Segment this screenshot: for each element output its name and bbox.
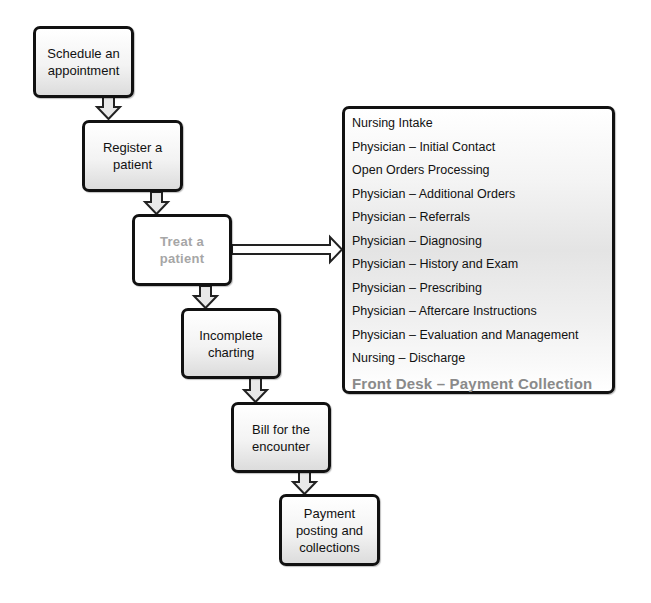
step-label: Treat a patient	[160, 233, 205, 267]
arrow-treat-to-detail	[232, 237, 342, 262]
arrow-bill-to-payment	[293, 472, 316, 494]
detail-item: Physician – Evaluation and Management	[352, 324, 612, 348]
detail-item-highlighted: Front Desk – Payment Collection	[352, 371, 612, 397]
step-bill-encounter: Bill for the encounter	[231, 402, 331, 473]
step-label: Payment posting and collections	[296, 505, 363, 556]
step-label: Incomplete charting	[199, 327, 263, 361]
detail-item: Physician – Initial Contact	[352, 136, 612, 160]
step-incomplete-charting: Incomplete charting	[181, 308, 281, 379]
step-schedule-appointment: Schedule an appointment	[33, 26, 134, 98]
arrow-charting-to-bill	[244, 378, 267, 402]
arrow-schedule-to-register	[97, 97, 120, 119]
detail-item: Open Orders Processing	[352, 159, 612, 183]
step-label: Bill for the encounter	[252, 421, 310, 455]
step-payment-posting: Payment posting and collections	[279, 494, 380, 566]
detail-item: Physician – Prescribing	[352, 277, 612, 301]
step-register-patient: Register a patient	[82, 120, 183, 192]
treat-detail-list: Nursing Intake Physician – Initial Conta…	[342, 106, 615, 394]
detail-item: Physician – Additional Orders	[352, 183, 612, 207]
arrow-treat-to-charting	[194, 286, 217, 308]
detail-item: Nursing Intake	[352, 112, 612, 136]
detail-item: Physician – Diagnosing	[352, 230, 612, 254]
detail-item: Physician – Referrals	[352, 206, 612, 230]
step-treat-patient: Treat a patient	[132, 214, 232, 286]
detail-item: Nursing – Discharge	[352, 347, 612, 371]
step-label: Schedule an appointment	[47, 45, 119, 79]
detail-item: Physician – Aftercare Instructions	[352, 300, 612, 324]
arrow-register-to-treat	[145, 192, 168, 214]
detail-item: Physician – History and Exam	[352, 253, 612, 277]
step-label: Register a patient	[103, 139, 162, 173]
